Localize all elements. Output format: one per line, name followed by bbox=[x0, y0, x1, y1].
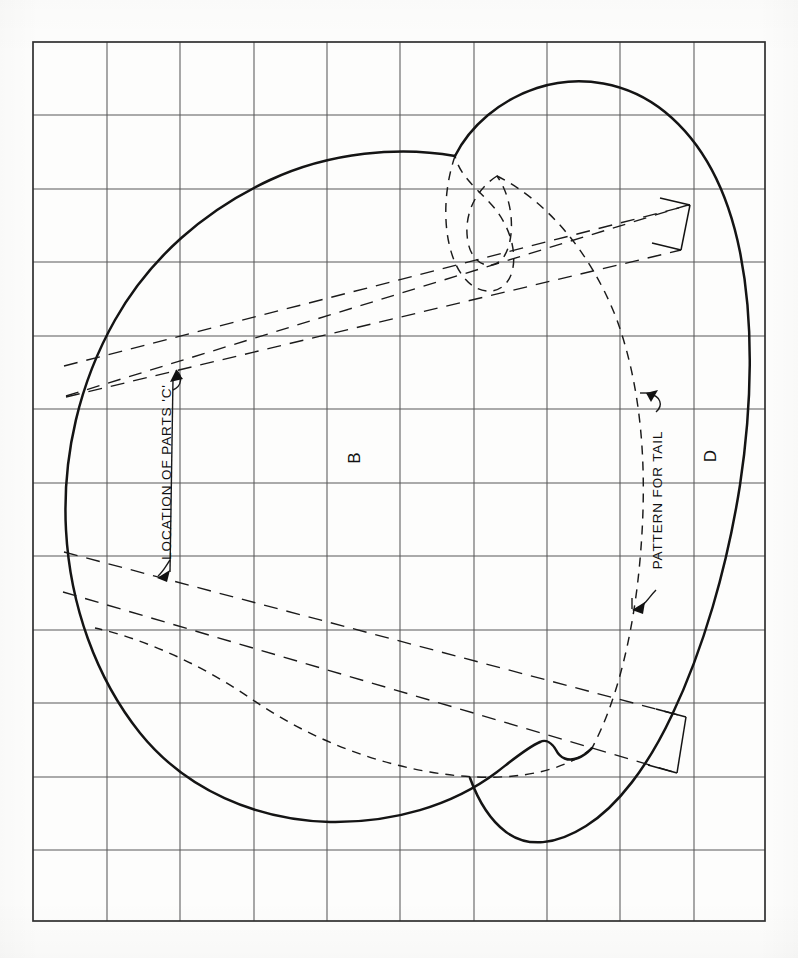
band-lower-end-cap bbox=[648, 709, 686, 773]
body-outline-b-path bbox=[65, 151, 540, 822]
tail-hook-outer bbox=[446, 156, 514, 291]
band-lower-line-a bbox=[64, 552, 686, 717]
band-upper-parts-c bbox=[64, 198, 690, 397]
pattern-drawing-page: LOCATION OF PARTS 'C' PATTERN FOR TAIL B… bbox=[0, 0, 798, 958]
band-lower-line-b bbox=[63, 592, 677, 773]
part-label-b: B bbox=[345, 452, 364, 463]
body-outline-b bbox=[65, 151, 592, 822]
band-upper-edge-lower bbox=[72, 207, 683, 352]
band-upper-line-b bbox=[66, 250, 681, 397]
annotation-label-pattern-for-tail: PATTERN FOR TAIL bbox=[650, 431, 665, 570]
pattern-drawing-canvas: LOCATION OF PARTS 'C' PATTERN FOR TAIL B… bbox=[0, 0, 798, 958]
body-notch bbox=[540, 741, 592, 760]
part-label-d: D bbox=[701, 450, 720, 462]
band-lower-parts-c bbox=[63, 552, 686, 773]
band-upper-line-a bbox=[64, 205, 690, 366]
band-upper-edge-top bbox=[66, 205, 688, 396]
grid-vertical-lines bbox=[107, 42, 694, 921]
annotation-location-of-parts-c: LOCATION OF PARTS 'C' bbox=[157, 370, 183, 582]
annotation-pattern-for-tail: PATTERN FOR TAIL bbox=[632, 390, 665, 614]
annotation-label-parts-c: LOCATION OF PARTS 'C' bbox=[159, 384, 174, 560]
